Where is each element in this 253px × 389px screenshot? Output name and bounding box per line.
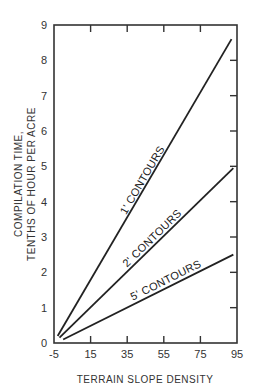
y-tick-label: 1 [41, 302, 47, 314]
x-tick-label: 75 [194, 348, 206, 360]
y-tick-label: 2 [41, 266, 47, 278]
x-tick-label: 95 [231, 348, 243, 360]
y-tick-label: 0 [41, 337, 47, 349]
series-label-1ft: 1' CONTOURS [117, 144, 166, 217]
y-axis-label-line1: COMPILATION TIME, [13, 131, 24, 237]
x-tick-label: -5 [49, 348, 59, 360]
y-tick-label: 4 [41, 196, 47, 208]
y-tick-label: 5 [41, 160, 47, 172]
y-tick-label: 6 [41, 125, 47, 137]
chart: -515355575950123456789 1' CONTOURS 2' CO… [0, 0, 253, 389]
series-line [63, 255, 233, 340]
y-tick-label: 7 [41, 90, 47, 102]
series-label-5ft: 5' CONTOURS [128, 257, 203, 302]
x-axis-label: TERRAIN SLOPE DENSITY [77, 374, 214, 385]
x-tick-label: 15 [84, 348, 96, 360]
y-tick-label: 9 [41, 19, 47, 31]
series-line [59, 168, 233, 338]
y-tick-label: 8 [41, 54, 47, 66]
x-tick-label: 55 [158, 348, 170, 360]
y-tick-label: 3 [41, 231, 47, 243]
series-label-2ft: 2' CONTOURS [120, 207, 184, 270]
y-axis-label-line2: TENTHS OF HOUR PER ACRE [26, 107, 37, 261]
x-tick-label: 35 [121, 348, 133, 360]
